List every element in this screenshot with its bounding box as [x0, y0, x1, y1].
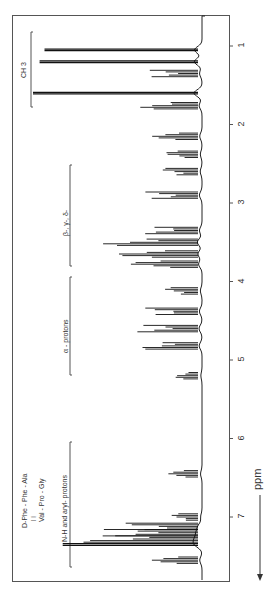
region-label-beta-gamma-delta: β-, γ-, δ- [62, 210, 69, 236]
tick-label-3: 3 [236, 199, 246, 204]
region-label-nh-aryl: N-H and aryl- protons [61, 475, 68, 542]
compound-line-2: Val - Pro - Gly [38, 479, 45, 522]
tick-label-2: 2 [236, 121, 246, 126]
ppm-direction-arrow [257, 495, 263, 581]
compound-line-1: D-Phe - Phe - Ala [21, 474, 28, 528]
tick-label-5: 5 [236, 356, 246, 361]
tick-label-6: 6 [236, 435, 246, 440]
axis-label-ppm: ppm [251, 469, 263, 490]
plot-frame [13, 16, 230, 582]
tick-label-7: 7 [236, 513, 246, 518]
tick-label-4: 4 [236, 278, 246, 283]
region-label-ch3: CH 3 [20, 62, 27, 78]
tick-label-1: 1 [236, 42, 246, 47]
spectrum-trace [33, 16, 205, 580]
compound-bonds: | | [30, 516, 36, 521]
region-label-alpha-protons: α - protons [62, 319, 69, 353]
